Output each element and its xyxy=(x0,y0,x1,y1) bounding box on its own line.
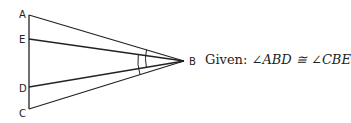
label-e: E xyxy=(19,34,25,45)
label-b: B xyxy=(189,56,196,67)
given-prefix: Given: xyxy=(205,52,247,67)
segment-db xyxy=(29,61,184,87)
angle-arc-cbe xyxy=(138,55,140,75)
given-statement: Given: ∠ABD ≅ ∠CBE xyxy=(205,52,351,67)
segment-eb xyxy=(29,39,184,61)
label-d: D xyxy=(19,83,27,94)
segment-ab xyxy=(29,15,184,61)
angle-arc-abd xyxy=(145,50,146,68)
segment-cb xyxy=(29,61,184,109)
label-a: A xyxy=(19,9,26,20)
given-congruence: ∠ABD ≅ ∠CBE xyxy=(251,52,350,67)
label-c: C xyxy=(19,108,26,119)
